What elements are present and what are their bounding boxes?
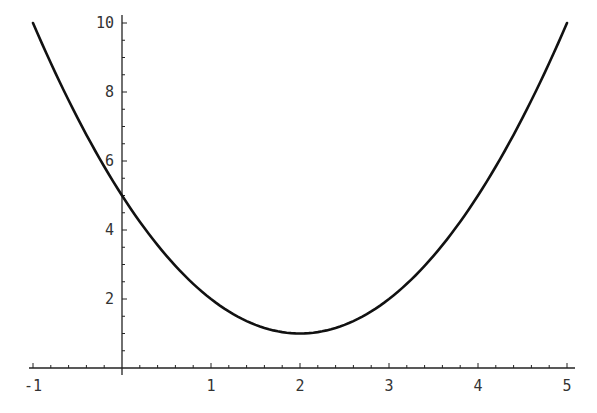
y-tick-label: 8 xyxy=(105,83,114,101)
x-tick-label: 2 xyxy=(295,377,304,395)
x-axis xyxy=(29,363,575,368)
x-tick-label: 5 xyxy=(562,377,571,395)
y-tick-label: 2 xyxy=(105,290,114,308)
x-tick-label: -1 xyxy=(24,377,42,395)
y-tick-labels: 246810 xyxy=(96,14,114,308)
plot-area: -112345 246810 xyxy=(0,0,597,413)
y-tick-label: 6 xyxy=(105,152,114,170)
x-tick-label: 3 xyxy=(384,377,393,395)
parabola-curve xyxy=(33,23,567,334)
y-tick-label: 10 xyxy=(96,14,114,32)
y-tick-label: 4 xyxy=(105,221,114,239)
x-tick-label: 1 xyxy=(206,377,215,395)
x-tick-labels: -112345 xyxy=(24,377,572,395)
x-tick-label: 4 xyxy=(473,377,482,395)
